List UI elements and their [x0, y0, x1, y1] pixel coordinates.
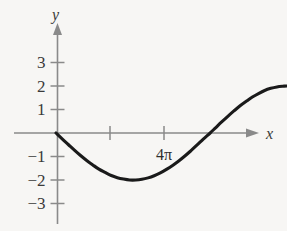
figure-container: 321−1−2−3 4π y x	[0, 0, 287, 231]
y-tick-label: −1	[27, 147, 45, 166]
y-axis-label: y	[50, 6, 60, 24]
y-tick-label: 3	[37, 53, 46, 72]
y-tick-label: 2	[37, 77, 46, 96]
y-tick-label: −3	[27, 194, 45, 213]
plot-canvas: 321−1−2−3 4π y x	[0, 0, 287, 231]
x-axis-label: x	[265, 125, 273, 142]
y-tick-label: 1	[37, 100, 46, 119]
x-tick-label: 4π	[156, 146, 172, 163]
x-axis-tick-labels: 4π	[156, 146, 172, 163]
y-tick-label: −2	[27, 171, 45, 190]
